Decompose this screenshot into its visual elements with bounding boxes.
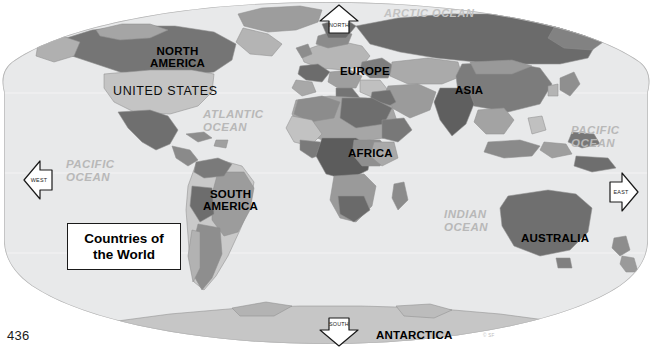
north-arrow-icon bbox=[318, 3, 360, 35]
compass-arrow-west[interactable]: WEST bbox=[22, 159, 54, 201]
compass-arrow-east[interactable]: EAST bbox=[608, 171, 640, 213]
compass-arrow-south[interactable]: SOUTH bbox=[318, 316, 360, 348]
west-arrow-icon bbox=[22, 159, 54, 201]
page-number: 436 bbox=[7, 328, 30, 343]
south-arrow-icon bbox=[318, 316, 360, 348]
map-graphic bbox=[0, 0, 653, 348]
map-title-box: Countries of the World bbox=[67, 223, 181, 270]
credit-mark: © SF bbox=[483, 333, 495, 338]
world-map[interactable] bbox=[0, 0, 653, 348]
compass-arrow-north[interactable]: NORTH bbox=[318, 3, 360, 35]
map-page: ARCTIC OCEAN ATLANTIC OCEAN PACIFIC OCEA… bbox=[0, 0, 653, 359]
east-arrow-icon bbox=[608, 171, 640, 213]
map-title-text: Countries of the World bbox=[84, 231, 164, 263]
map-ocean-layer bbox=[0, 0, 653, 348]
